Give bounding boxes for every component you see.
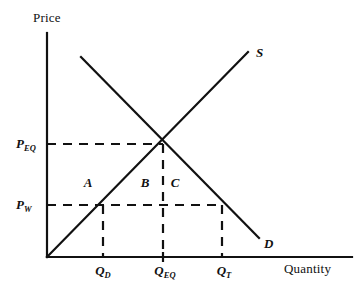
plot-canvas (0, 0, 364, 302)
supply-curve-label: S (256, 46, 263, 59)
y-tick-base-equilibrium-price: P (16, 136, 24, 151)
x-tick-label-equilibrium-quantity: QEQ (154, 264, 175, 277)
region-label-c: C (171, 176, 180, 189)
x-tick-sub-total-quantity: T (226, 270, 231, 280)
x-tick-base-total-quantity: Q (217, 263, 226, 278)
y-tick-label-equilibrium-price: PEQ (16, 137, 36, 150)
y-axis-title: Price (33, 11, 61, 24)
x-tick-label-quantity-demanded: QD (95, 264, 111, 277)
supply-curve (47, 52, 248, 257)
x-tick-sub-quantity-demanded: D (105, 270, 111, 280)
y-tick-label-world-price: PW (16, 198, 32, 211)
supply-demand-diagram: Price Quantity S D PEQ PW QD QEQ QT A B … (0, 0, 364, 302)
x-tick-label-total-quantity: QT (217, 264, 232, 277)
x-tick-base-quantity-demanded: Q (95, 263, 104, 278)
y-tick-sub-equilibrium-price: EQ (24, 143, 36, 153)
region-label-a: A (84, 176, 93, 189)
region-label-b: B (141, 176, 150, 189)
y-tick-sub-world-price: W (24, 204, 32, 214)
x-tick-base-equilibrium-quantity: Q (154, 263, 163, 278)
demand-curve-label: D (264, 237, 273, 250)
x-axis-title: Quantity (284, 262, 331, 275)
demand-curve (81, 57, 259, 238)
y-tick-base-world-price: P (16, 197, 24, 212)
x-tick-sub-equilibrium-quantity: EQ (164, 270, 176, 280)
